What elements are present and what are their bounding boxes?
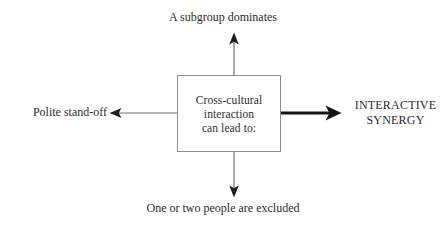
label-interactive-synergy-line-2: SYNERGY	[345, 113, 446, 128]
arrow-down-people-excluded	[229, 152, 239, 198]
label-interactive-synergy: INTERACTIVE SYNERGY	[345, 98, 446, 128]
center-box-line-2: interaction	[204, 107, 254, 121]
arrow-up-subgroup-dominates	[229, 33, 239, 76]
center-box-line-3: can lead to:	[202, 121, 256, 135]
label-interactive-synergy-line-1: INTERACTIVE	[345, 98, 446, 113]
arrow-right-interactive-synergy	[281, 106, 342, 121]
arrow-left-polite-stand-off	[110, 108, 178, 118]
center-box-line-1: Cross-cultural	[196, 93, 263, 107]
center-box: Cross-cultural interaction can lead to:	[177, 75, 281, 152]
label-polite-stand-off: Polite stand-off	[0, 105, 107, 120]
label-subgroup-dominates: A subgroup dominates	[0, 10, 446, 25]
diagram-canvas: Cross-cultural interaction can lead to: …	[0, 0, 446, 230]
label-people-excluded: One or two people are excluded	[0, 201, 446, 216]
